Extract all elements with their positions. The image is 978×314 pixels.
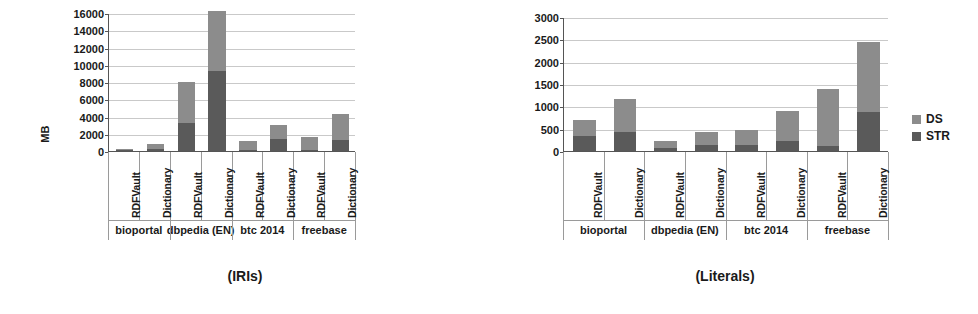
legend-swatch-icon (912, 115, 921, 124)
y-axis-tick-label: 4000 (80, 112, 104, 123)
group-axis-label: freebase (301, 224, 346, 236)
bar-segment-ds (776, 111, 799, 141)
y-axis-tick-label: 2000 (80, 129, 104, 140)
bars-container (109, 14, 355, 151)
category-tick-label: Dictionary (285, 168, 297, 218)
chart-title-iris: (IRIs) (228, 268, 263, 284)
stacked-bar (614, 99, 637, 151)
y-axis-tick-label: 16000 (73, 9, 104, 20)
group-axis-label: bioportal (580, 224, 627, 236)
group-axis-label: dbpedia (EN) (167, 224, 235, 236)
plot-area-iris: 0200040006000800010000120001400016000 (108, 14, 355, 152)
bar-segment-str (147, 149, 164, 151)
y-axis-tick-label: 14000 (73, 26, 104, 37)
chart-panel-literals: 050010001500200025003000 RDFVaultDiction… (489, 0, 978, 314)
category-tick-label: Dictionary (346, 168, 358, 218)
y-axis-tick-label: 6000 (80, 95, 104, 106)
group-axis-label: freebase (825, 224, 870, 236)
stacked-bar (270, 125, 287, 151)
legend: DSSTR (912, 113, 950, 142)
bar-segment-ds (178, 82, 195, 122)
bar-segment-ds (817, 89, 840, 145)
bar-segment-str (857, 112, 880, 151)
category-tick-label: RDFVault (315, 172, 327, 218)
group-axis-label: btc 2014 (240, 224, 284, 236)
stacked-bar (178, 82, 195, 151)
bar-segment-ds (654, 141, 677, 149)
chart-panel-iris: MB 0200040006000800010000120001400016000… (0, 0, 489, 314)
bar-segment-ds (857, 42, 880, 111)
category-tick-label: Dictionary (161, 168, 173, 218)
legend-label: DS (926, 113, 943, 125)
legend-item-ds[interactable]: DS (912, 113, 950, 125)
y-axis-tick-label: 1500 (535, 80, 559, 91)
legend-item-str[interactable]: STR (912, 130, 950, 142)
stacked-bar (735, 130, 758, 151)
stacked-bar (147, 144, 164, 151)
group-separator (726, 220, 727, 240)
category-tick-label: RDFVault (592, 172, 604, 218)
stacked-bar (301, 137, 318, 151)
group-separator (563, 220, 564, 240)
stacked-bar (695, 132, 718, 151)
bar-segment-str (270, 139, 287, 151)
bar-segment-ds (614, 99, 637, 132)
y-axis-tick-label: 0 (553, 147, 559, 158)
category-tick-label: RDFVault (836, 172, 848, 218)
bar-segment-str (301, 150, 318, 151)
y-axis-label: MB (39, 125, 51, 143)
y-axis-tick-label: 8000 (80, 78, 104, 89)
group-axis-label: bioportal (115, 224, 162, 236)
category-tick-label: RDFVault (254, 172, 266, 218)
category-tick-label: Dictionary (714, 168, 726, 218)
category-tick-label: Dictionary (795, 168, 807, 218)
y-axis-tick-label: 3000 (535, 13, 559, 24)
category-separator (108, 152, 109, 220)
bar-segment-str (695, 145, 718, 151)
y-axis-tick-label: 2000 (535, 57, 559, 68)
y-axis-tick-label: 500 (541, 124, 559, 135)
group-separator (355, 220, 356, 240)
group-separator (807, 220, 808, 240)
stacked-bar (573, 120, 596, 151)
bar-segment-ds (239, 141, 256, 150)
bar-segment-str (239, 150, 256, 151)
stacked-bar (654, 141, 677, 151)
y-axis-tick-label: 1000 (535, 102, 559, 113)
stacked-bar (116, 149, 133, 151)
bar-segment-str (332, 140, 349, 151)
bar-segment-str (178, 123, 195, 151)
legend-swatch-icon (912, 132, 921, 141)
bars-container (564, 18, 888, 151)
bar-segment-ds (270, 125, 287, 139)
figure-two-stacked-bar-charts: MB 0200040006000800010000120001400016000… (0, 0, 978, 314)
y-axis-tick-label: 0 (98, 147, 104, 158)
group-separator (170, 220, 171, 240)
category-axis-literals: RDFVaultDictionaryRDFVaultDictionaryRDFV… (563, 152, 888, 240)
stacked-bar (239, 141, 256, 151)
bar-segment-str (735, 145, 758, 151)
plot-area-literals: 050010001500200025003000 (563, 18, 888, 152)
stacked-bar (332, 114, 349, 151)
stacked-bar (208, 11, 225, 151)
bar-segment-ds (332, 114, 349, 140)
group-separator (293, 220, 294, 240)
bar-segment-ds (208, 11, 225, 71)
bar-segment-str (614, 132, 637, 151)
stacked-bar (857, 42, 880, 151)
category-tick-label: Dictionary (223, 168, 235, 218)
y-axis-tick-label: 2500 (535, 35, 559, 46)
y-axis-tick-label: 10000 (73, 60, 104, 71)
category-tick-label: RDFVault (674, 172, 686, 218)
category-tick-label: RDFVault (192, 172, 204, 218)
category-axis-iris: RDFVaultDictionaryRDFVaultDictionaryRDFV… (108, 152, 355, 240)
category-separator (563, 152, 564, 220)
group-axis-label: dbpedia (EN) (651, 224, 719, 236)
group-separator (644, 220, 645, 240)
group-axis-label: btc 2014 (744, 224, 788, 236)
y-axis-tick-label: 12000 (73, 43, 104, 54)
bar-segment-ds (301, 137, 318, 149)
bar-segment-str (776, 141, 799, 151)
legend-label: STR (926, 130, 950, 142)
bar-segment-str (573, 136, 596, 151)
